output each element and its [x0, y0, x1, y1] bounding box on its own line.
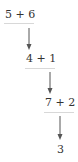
arrows-layer: [0, 0, 78, 162]
arrow-down-icon: [48, 72, 53, 94]
arrow-down-icon: [58, 116, 63, 140]
arrow-down-icon: [27, 28, 32, 50]
